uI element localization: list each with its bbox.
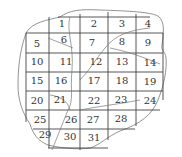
cell-label: 31 — [88, 132, 101, 143]
grid-region-diagram: 1 2 3 4 5 6 7 8 9 10 11 12 13 14 15 16 1… — [0, 0, 182, 157]
cell-label: 24 — [144, 95, 157, 106]
cell-label: 12 — [90, 56, 103, 67]
cell-label: 15 — [31, 75, 44, 86]
cell-label: 23 — [115, 94, 128, 105]
cell-label: 14 — [144, 57, 157, 68]
cell-label: 3 — [119, 18, 125, 29]
cell-labels: 1 2 3 4 5 6 7 8 9 10 11 12 13 14 15 16 1… — [31, 18, 157, 143]
cell-label: 25 — [34, 114, 47, 125]
cell-label: 28 — [115, 113, 128, 124]
cell-label: 22 — [88, 95, 101, 106]
cell-label: 10 — [31, 56, 44, 67]
cell-label: 8 — [119, 36, 125, 47]
cell-label: 7 — [89, 37, 95, 48]
cell-label: 27 — [87, 114, 100, 125]
cell-label: 9 — [145, 37, 151, 48]
cell-label: 1 — [59, 18, 65, 29]
cell-label: 13 — [116, 56, 129, 67]
cell-label: 26 — [65, 114, 78, 125]
cell-label: 16 — [55, 75, 68, 86]
cell-label: 30 — [64, 131, 77, 142]
cell-label: 21 — [54, 94, 67, 105]
cell-label: 18 — [116, 75, 129, 86]
cell-label: 4 — [145, 18, 151, 29]
cell-label: 20 — [31, 95, 44, 106]
cell-label: 29 — [39, 129, 52, 140]
cell-label: 2 — [91, 18, 97, 29]
cell-label: 5 — [34, 38, 40, 49]
cell-label: 11 — [60, 56, 73, 67]
cell-label: 17 — [88, 75, 101, 86]
cell-label: 6 — [61, 34, 67, 45]
cell-label: 19 — [144, 76, 157, 87]
